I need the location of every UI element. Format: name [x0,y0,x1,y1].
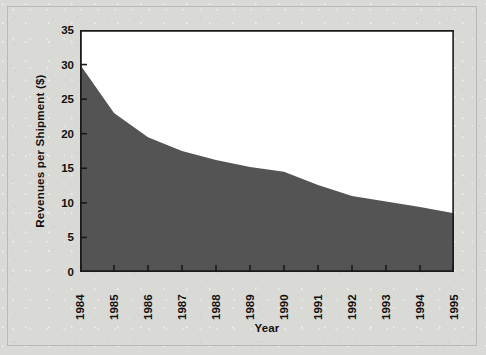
y-tick-label: 20 [48,128,74,140]
x-tick-label: 1985 [107,276,121,320]
chart-figure: Revenues per Shipment ($) 05101520253035… [0,0,486,355]
y-tick-label: 35 [48,24,74,36]
x-tick-label: 1987 [175,276,189,320]
y-tick-label: 15 [48,162,74,174]
x-tick-label: 1984 [73,276,87,320]
x-tick-label: 1993 [379,276,393,320]
area-chart-svg [80,30,454,272]
y-tick-label: 25 [48,93,74,105]
y-tick-label: 10 [48,197,74,209]
x-tick-label: 1992 [345,276,359,320]
x-tick-label: 1991 [311,276,325,320]
x-tick-label: 1988 [209,276,223,320]
x-axis-tick-labels: 1984198519861987198819891990199119921993… [80,276,454,320]
y-tick-label: 30 [48,59,74,71]
x-tick-label: 1990 [277,276,291,320]
x-tick-label: 1995 [447,276,461,320]
x-tick-label: 1986 [141,276,155,320]
x-tick-label: 1994 [413,276,427,320]
y-axis-tick-labels: 05101520253035 [44,30,74,272]
plot-area [80,30,454,272]
y-tick-label: 0 [48,266,74,278]
x-axis-title: Year [80,322,454,334]
y-tick-label: 5 [48,231,74,243]
x-tick-label: 1989 [243,276,257,320]
